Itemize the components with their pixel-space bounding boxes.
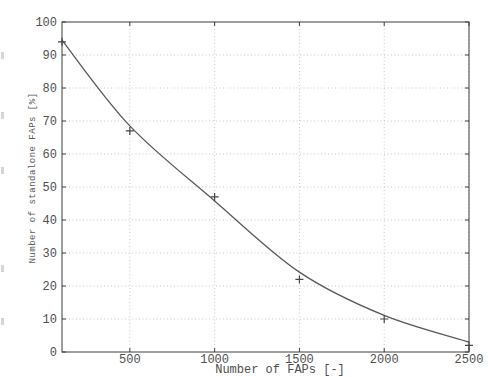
- y-tick-label: 100: [35, 16, 57, 30]
- x-tick-label: 500: [119, 353, 141, 367]
- chart-figure: 5001000150020002500010203040506070809010…: [0, 0, 497, 377]
- y-tick-label: 60: [43, 148, 57, 162]
- y-tick-label: 50: [43, 181, 57, 195]
- chart-canvas: 5001000150020002500010203040506070809010…: [0, 0, 497, 377]
- y-axis-label: Number of standalone FAPs [%]: [29, 92, 38, 263]
- y-tick-label: 10: [43, 313, 57, 327]
- data-point-marker: [211, 193, 219, 201]
- y-tick-label: 90: [43, 49, 57, 63]
- scan-artifact: [1, 167, 4, 174]
- y-tick-label: 20: [43, 280, 57, 294]
- data-point-marker: [465, 341, 473, 349]
- y-tick-label: 80: [43, 82, 57, 96]
- scan-artifact: [1, 52, 4, 59]
- y-tick-label: 70: [43, 115, 57, 129]
- fitted-curve: [62, 40, 469, 342]
- y-tick-label: 40: [43, 214, 57, 228]
- scan-artifact: [1, 318, 4, 325]
- data-point-marker: [295, 275, 303, 283]
- scan-artifact: [1, 265, 4, 272]
- x-tick-label: 2500: [455, 353, 484, 367]
- scan-artifact: [1, 112, 4, 119]
- x-axis-label: Number of FAPs [-]: [160, 364, 400, 376]
- y-tick-label: 30: [43, 247, 57, 261]
- y-tick-label: 0: [50, 346, 57, 360]
